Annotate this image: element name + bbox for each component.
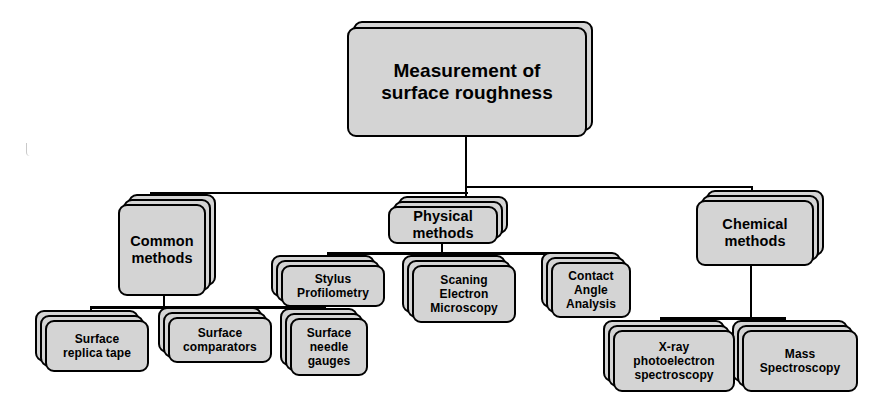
node-xray-photoelectron-spectroscopy-card[interactable]: X-ray photoelectron spectroscopy	[613, 330, 735, 392]
node-stylus-profilometry-label-line2: Profilometry	[297, 286, 369, 300]
node-root[interactable]: Measurement of surface roughness	[347, 27, 587, 137]
node-chemical-methods-label-line1: Chemical	[722, 216, 787, 232]
node-surface-replica-tape-card[interactable]: Surface replica tape	[45, 320, 149, 372]
scan-artifact	[26, 143, 30, 156]
node-mass-spectroscopy[interactable]: Mass Spectroscopy	[742, 330, 858, 392]
diagram-canvas: Measurement of surface roughness Common …	[0, 0, 878, 413]
node-scanning-electron-microscopy-label-line2: Electron	[440, 287, 489, 301]
node-surface-replica-tape-label-line1: Surface	[75, 332, 120, 346]
node-physical-methods[interactable]: Physical methods	[388, 206, 498, 244]
node-scanning-electron-microscopy[interactable]: Scaning Electron Microscopy	[412, 265, 516, 323]
node-surface-needle-gauges-label-line1: Surface	[307, 326, 352, 340]
node-mass-spectroscopy-label-line2: Spectroscopy	[760, 361, 841, 375]
node-contact-angle-analysis-label-line3: Analysis	[566, 297, 616, 311]
node-surface-comparators-card[interactable]: Surface comparators	[168, 317, 272, 363]
node-contact-angle-analysis-label-line2: Angle	[574, 283, 608, 297]
connector-level1-bus-right	[465, 186, 753, 188]
node-surface-needle-gauges-card[interactable]: Surface needle gauges	[290, 318, 368, 376]
node-chemical-methods[interactable]: Chemical methods	[696, 200, 814, 266]
node-surface-comparators[interactable]: Surface comparators	[168, 317, 272, 363]
node-surface-needle-gauges[interactable]: Surface needle gauges	[290, 318, 368, 376]
node-physical-methods-label-line1: Physical	[413, 208, 473, 224]
node-common-methods-label-line2: methods	[131, 250, 192, 266]
node-contact-angle-analysis-label-line1: Contact	[568, 269, 613, 283]
node-surface-needle-gauges-label-line3: gauges	[308, 354, 351, 368]
node-physical-methods-card[interactable]: Physical methods	[388, 206, 498, 244]
node-mass-spectroscopy-label-line1: Mass	[785, 347, 815, 361]
node-contact-angle-analysis-card[interactable]: Contact Angle Analysis	[551, 262, 631, 318]
node-surface-comparators-label-line1: Surface	[198, 326, 243, 340]
node-physical-methods-label-line2: methods	[412, 225, 473, 241]
node-surface-replica-tape-label-line2: replica tape	[63, 346, 131, 360]
connector-chemical-stem	[750, 266, 752, 318]
node-scanning-electron-microscopy-card[interactable]: Scaning Electron Microscopy	[412, 265, 516, 323]
node-mass-spectroscopy-card[interactable]: Mass Spectroscopy	[742, 330, 858, 392]
node-scanning-electron-microscopy-label-line3: Microscopy	[430, 301, 498, 315]
node-stylus-profilometry-card[interactable]: Stylus Profilometry	[281, 265, 385, 307]
node-xray-photoelectron-spectroscopy-label-line2: photoelectron	[633, 354, 714, 368]
node-xray-photoelectron-spectroscopy-label-line3: spectroscopy	[634, 368, 713, 382]
node-surface-needle-gauges-label-line2: needle	[310, 340, 349, 354]
node-root-card[interactable]: Measurement of surface roughness	[347, 27, 587, 137]
node-surface-replica-tape[interactable]: Surface replica tape	[45, 320, 149, 372]
node-common-methods[interactable]: Common methods	[118, 204, 206, 296]
node-root-label-line2: surface roughness	[381, 82, 553, 103]
node-common-methods-label-line1: Common	[130, 233, 193, 249]
node-stylus-profilometry-label-line1: Stylus	[315, 272, 352, 286]
node-scanning-electron-microscopy-label-line1: Scaning	[440, 273, 487, 287]
node-xray-photoelectron-spectroscopy-label-line1: X-ray	[659, 340, 690, 354]
node-xray-photoelectron-spectroscopy[interactable]: X-ray photoelectron spectroscopy	[613, 330, 735, 392]
node-contact-angle-analysis[interactable]: Contact Angle Analysis	[551, 262, 631, 318]
node-root-label-line1: Measurement of	[393, 60, 540, 81]
node-common-methods-card[interactable]: Common methods	[118, 204, 206, 296]
node-surface-comparators-label-line2: comparators	[183, 340, 257, 354]
node-chemical-methods-card[interactable]: Chemical methods	[696, 200, 814, 266]
node-stylus-profilometry[interactable]: Stylus Profilometry	[281, 265, 385, 307]
node-chemical-methods-label-line2: methods	[724, 233, 785, 249]
connector-root-trunk	[465, 136, 467, 188]
